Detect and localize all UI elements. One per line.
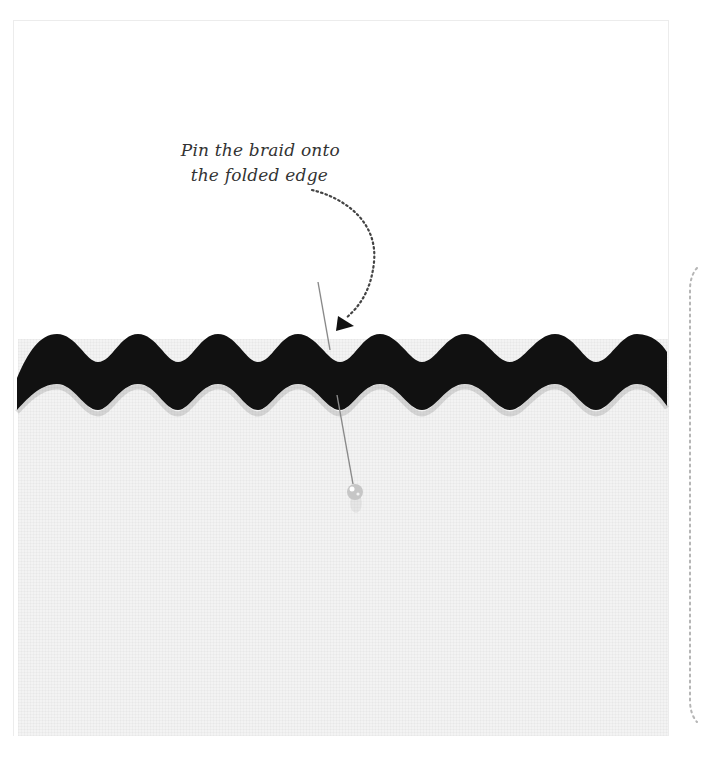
annotation-line-2: the folded edge [150,163,328,188]
annotation-line-1: Pin the braid onto [150,138,340,163]
pin-head [347,484,363,513]
ric-rac-braid [17,334,667,414]
side-dotted-line [690,268,697,722]
annotation-label: Pin the braid onto the folded edge [150,138,340,188]
pin-shaft-top [318,282,330,350]
arrowhead-icon [336,316,354,331]
illustration-overlay [0,0,701,770]
instruction-figure: Pin the braid onto the folded edge [0,0,701,770]
